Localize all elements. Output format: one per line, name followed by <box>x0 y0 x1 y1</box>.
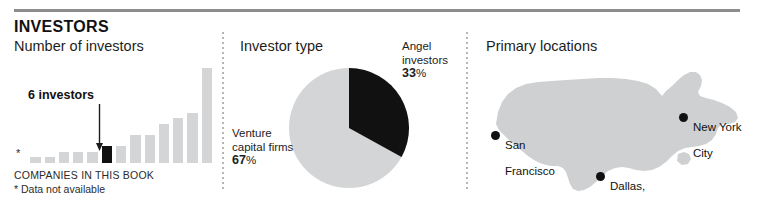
bar <box>173 118 183 163</box>
pie-label-venture-line1: Venture <box>232 127 322 141</box>
bar-callout-label: 6 investors <box>28 88 94 102</box>
investors-infographic: INVESTORS Number of investors * 6 invest… <box>0 0 761 205</box>
footnote-data-not-available: * Data not available <box>14 183 105 195</box>
panel-investor-type: Investor type Angel investors 33% Ventur… <box>222 0 466 205</box>
bar <box>30 157 40 163</box>
map-dot-new-york-city[interactable] <box>679 113 688 122</box>
map-label-new-york-city-line1: New York <box>693 121 742 134</box>
pie-value-angel-number: 33 <box>402 66 416 80</box>
pie-value-venture-number: 67 <box>232 153 246 167</box>
bar-chart: * <box>14 62 214 163</box>
panel-number-of-investors: INVESTORS Number of investors * 6 invest… <box>0 0 222 205</box>
panel-title-number-of-investors: Number of investors <box>14 38 144 54</box>
no-data-asterisk: * <box>16 149 20 157</box>
footnote-companies-in-this-book: COMPANIES IN THIS BOOK <box>14 169 154 181</box>
bar <box>73 152 83 163</box>
pie-value-angel: 33% <box>402 67 464 81</box>
map-dot-san-francisco[interactable] <box>491 131 500 140</box>
bar <box>130 135 140 163</box>
panel-primary-locations: Primary locations San Francisco Dallas, … <box>466 0 761 205</box>
map-label-dallas: Dallas, TX <box>610 167 645 205</box>
percent-sign-icon: % <box>416 67 426 79</box>
percent-sign-icon: % <box>246 154 256 166</box>
pie-label-angel-line2: investors <box>402 54 464 68</box>
pie-label-venture-line2: capital firms <box>232 141 322 155</box>
map-label-dallas-line1: Dallas, <box>610 180 645 193</box>
us-map: San Francisco Dallas, TX New York City <box>486 58 754 198</box>
map-dot-dallas[interactable] <box>596 172 605 181</box>
map-label-new-york-city-line2: City <box>693 147 742 160</box>
map-label-san-francisco: San Francisco <box>505 126 555 191</box>
bar <box>159 124 169 163</box>
map-label-san-francisco-line1: San <box>505 139 555 152</box>
pie-label-angel-line1: Angel <box>402 40 464 54</box>
bar <box>116 146 126 163</box>
panel-title-primary-locations: Primary locations <box>486 38 597 54</box>
panel-title-investor-type: Investor type <box>240 38 323 54</box>
bar <box>87 152 97 163</box>
page-title: INVESTORS <box>14 18 109 36</box>
callout-arrow-icon <box>95 104 104 152</box>
bar <box>59 152 69 163</box>
bar <box>145 135 155 163</box>
pie-label-angel: Angel investors 33% <box>402 40 464 81</box>
map-label-new-york-city: New York City <box>693 108 742 173</box>
pie-value-venture: 67% <box>232 154 322 168</box>
bar <box>45 157 55 163</box>
bar <box>187 113 197 164</box>
pie-label-venture: Venture capital firms 67% <box>232 127 322 168</box>
bar <box>202 68 212 163</box>
map-label-san-francisco-line2: Francisco <box>505 165 555 178</box>
